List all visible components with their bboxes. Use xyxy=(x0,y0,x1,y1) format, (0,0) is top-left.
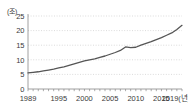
y-tick-10: 10 xyxy=(16,56,24,65)
x-tick-2000: 2000 xyxy=(76,94,93,103)
y-tick-25: 25 xyxy=(16,12,24,21)
y-tick-5: 5 xyxy=(20,70,24,79)
x-tick-1995: 1995 xyxy=(50,94,67,103)
x-tick-1989: 1989 xyxy=(20,94,37,103)
data-series-line xyxy=(28,25,182,73)
y-tick-15: 15 xyxy=(16,41,24,50)
y-tick-0: 0 xyxy=(20,85,24,94)
x-axis-tick-labels: 1989199520002005201020152019(년) xyxy=(20,93,188,103)
y-tick-20: 20 xyxy=(16,26,24,35)
gridlines xyxy=(28,16,182,74)
x-tick-2019: 2019(년) xyxy=(162,93,188,103)
line-chart: (조) 0510152025 1989199520002005201020152… xyxy=(0,0,188,112)
y-axis-tick-labels: 0510152025 xyxy=(16,12,24,94)
chart-plot-area: 0510152025 1989199520002005201020152019(… xyxy=(0,0,188,112)
x-tick-2005: 2005 xyxy=(102,94,119,103)
x-tick-2010: 2010 xyxy=(127,94,144,103)
